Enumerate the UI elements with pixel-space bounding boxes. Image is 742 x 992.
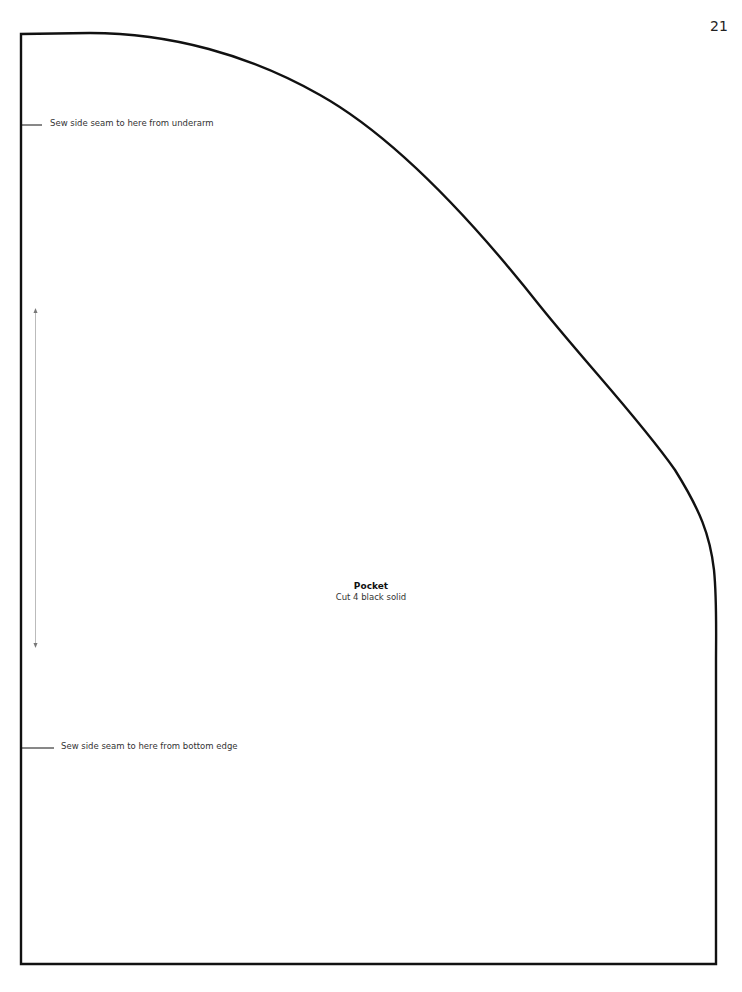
pattern-outline bbox=[0, 0, 742, 992]
piece-instruction: Cut 4 black solid bbox=[0, 592, 742, 603]
pocket-outline bbox=[21, 33, 716, 964]
underarm-marker-label: Sew side seam to here from underarm bbox=[50, 118, 214, 128]
bottom-edge-marker-label: Sew side seam to here from bottom edge bbox=[61, 741, 238, 751]
pattern-piece-label: Pocket Cut 4 black solid bbox=[0, 581, 742, 603]
piece-name: Pocket bbox=[0, 581, 742, 592]
